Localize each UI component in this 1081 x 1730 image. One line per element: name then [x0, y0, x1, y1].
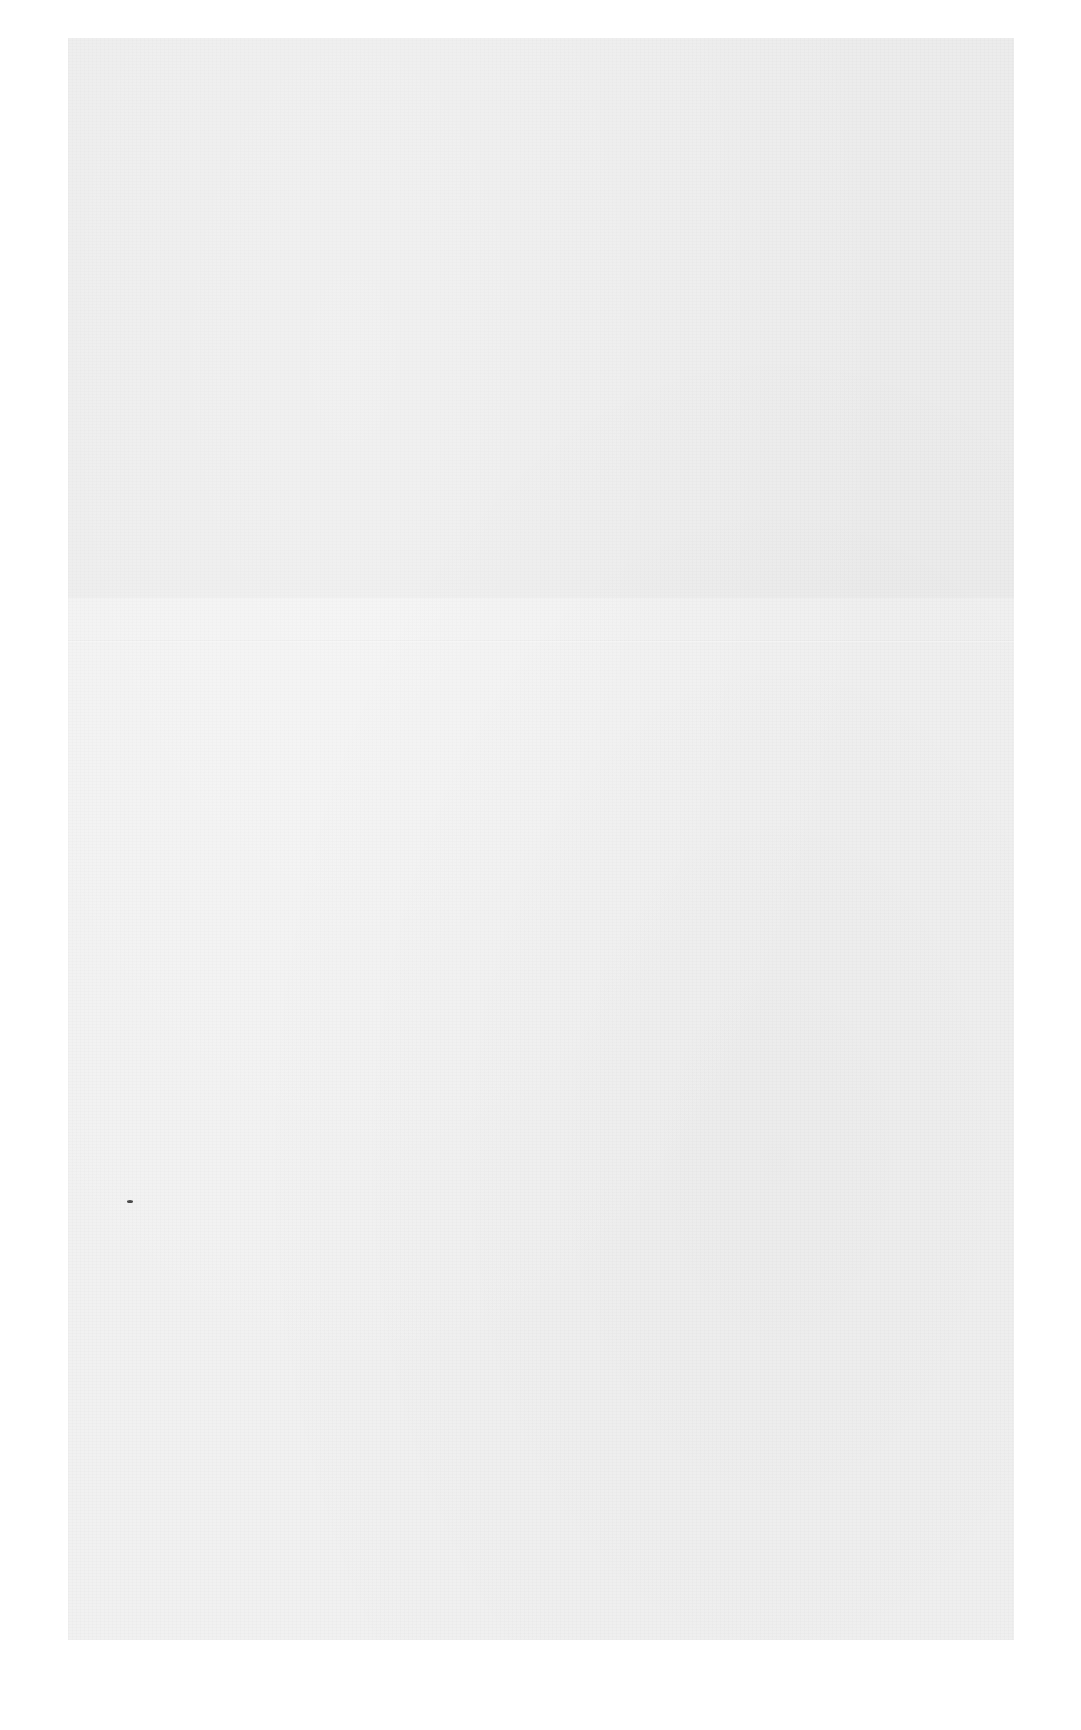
blank-paper-page	[68, 38, 1014, 1640]
scan-canvas	[0, 0, 1081, 1730]
paper-shading	[68, 38, 1014, 598]
fold-line	[68, 640, 1014, 642]
dust-speck	[127, 1200, 133, 1203]
